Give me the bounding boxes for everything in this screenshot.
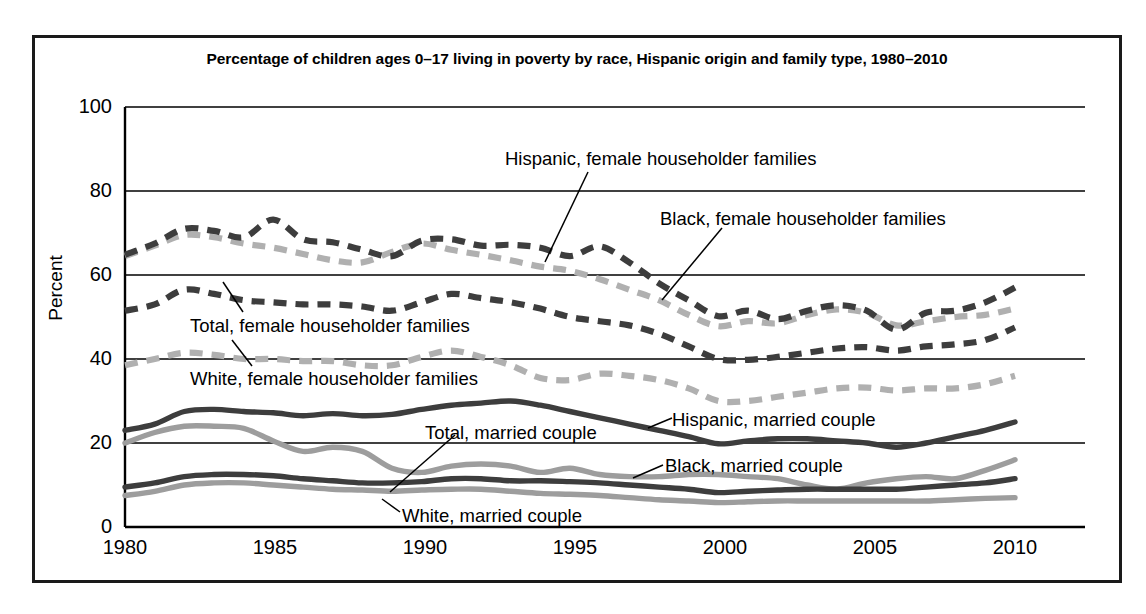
leader-black-female-householder-families (662, 228, 722, 300)
x-tick-1995: 1995 (535, 536, 615, 559)
y-tick-0: 0 (52, 515, 112, 538)
x-tick-1990: 1990 (385, 536, 465, 559)
y-axis-title: Percent (45, 228, 67, 348)
chart-figure: Percentage of children ages 0–17 living … (0, 0, 1146, 614)
leader-white-married-couple (382, 499, 400, 512)
leader-hispanic-female-householder-families (545, 172, 588, 262)
y-tick-60: 60 (52, 263, 112, 286)
x-tick-2005: 2005 (835, 536, 915, 559)
x-tick-1985: 1985 (235, 536, 315, 559)
y-tick-80: 80 (52, 179, 112, 202)
y-tick-100: 100 (52, 95, 112, 118)
annotation-total-married-couple: Total, married couple (425, 422, 597, 444)
annotation-black-married-couple: Black, married couple (665, 455, 843, 477)
annotation-black-female-householder-families: Black, female householder families (660, 208, 946, 230)
y-tick-20: 20 (52, 431, 112, 454)
annotation-white-married-couple: White, married couple (402, 505, 582, 527)
annotation-hispanic-female-householder-families: Hispanic, female householder families (505, 148, 817, 170)
x-tick-1980: 1980 (85, 536, 165, 559)
annotation-total-female-householder-families: Total, female householder families (190, 315, 470, 337)
series-line-white-married-couple (125, 483, 1015, 503)
y-tick-40: 40 (52, 347, 112, 370)
leader-hispanic-married-couple (648, 418, 672, 428)
leader-white-female-householder-families (232, 340, 252, 366)
annotation-hispanic-married-couple: Hispanic, married couple (672, 409, 876, 431)
x-tick-2010: 2010 (975, 536, 1055, 559)
x-tick-2000: 2000 (685, 536, 765, 559)
annotation-white-female-householder-families: White, female householder families (190, 368, 478, 390)
series-line-hispanic-female-householder-families (125, 235, 1015, 327)
